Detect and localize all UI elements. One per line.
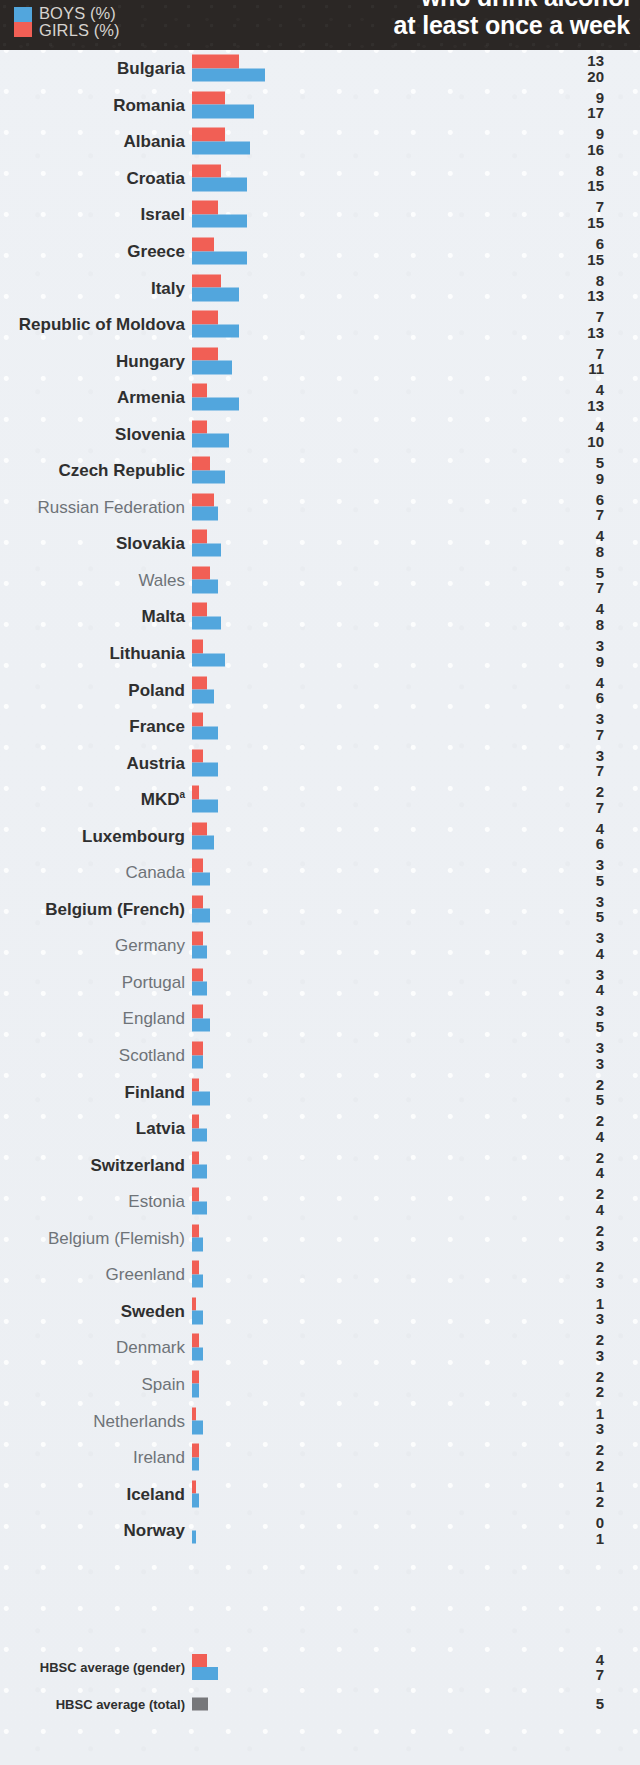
- row-bars: [192, 1407, 492, 1434]
- bar-girls: [192, 1151, 199, 1165]
- row-label: Germany: [115, 936, 185, 955]
- value-boys: 15: [587, 178, 604, 194]
- row-values: 25: [596, 1076, 604, 1107]
- row-values: 815: [587, 162, 604, 193]
- value-boys: 15: [587, 214, 604, 230]
- row-label: Romania: [113, 95, 185, 114]
- row-label: Norway: [124, 1521, 185, 1540]
- chart-row: Estonia24: [0, 1183, 640, 1220]
- value-boys: 7: [596, 1667, 604, 1683]
- value-girls: 3: [596, 930, 604, 946]
- row-bars: [192, 91, 492, 118]
- row-values: 916: [587, 126, 604, 157]
- bar-girls: [192, 932, 203, 946]
- value-girls: 13: [587, 53, 604, 69]
- row-label: Greece: [127, 242, 185, 261]
- value-girls: 4: [596, 1651, 604, 1667]
- row-bars: [192, 566, 492, 593]
- row-values: 715: [587, 199, 604, 230]
- bar-boys: [192, 945, 207, 959]
- value-girls: 2: [596, 1222, 604, 1238]
- chart-page: BOYS (%) GIRLS (%) who drink alcohol at …: [0, 0, 640, 1765]
- chart-title: who drink alcohol at least once a week: [394, 0, 630, 39]
- chart-row: Belgium (Flemish)23: [0, 1220, 640, 1257]
- row-label: Austria: [126, 753, 185, 772]
- bar-girls: [192, 1042, 203, 1056]
- value-girls: 2: [596, 1149, 604, 1165]
- chart-row: Russian Federation67: [0, 489, 640, 526]
- row-values: 711: [588, 345, 604, 376]
- row-bars: [192, 786, 492, 813]
- bar-girls: [192, 1005, 203, 1019]
- row-bars: [192, 1151, 492, 1178]
- bar-boys: [192, 141, 250, 155]
- bar-boys: [192, 799, 218, 813]
- row-label: Poland: [128, 680, 185, 699]
- chart-row: Republic of Moldova713: [0, 306, 640, 343]
- row-label: Scotland: [119, 1046, 185, 1065]
- chart-row: Romania917: [0, 87, 640, 124]
- row-bars: [192, 1517, 492, 1544]
- bar-boys: [192, 909, 210, 923]
- row-values: 24: [596, 1113, 604, 1144]
- row-label: Belgium (French): [45, 899, 185, 918]
- value-girls: 3: [596, 638, 604, 654]
- bar-girls: [192, 1334, 199, 1348]
- row-bars: [192, 1188, 492, 1215]
- row-values: 917: [587, 89, 604, 120]
- bar-boys: [192, 690, 214, 704]
- bar-girls: [192, 1078, 199, 1092]
- bar-boys: [192, 1457, 199, 1471]
- bar-girls: [192, 566, 210, 580]
- chart-row: MKDa27: [0, 781, 640, 818]
- row-bars: [192, 1334, 492, 1361]
- bar-boys: [192, 1530, 196, 1544]
- chart-row: Israel715: [0, 196, 640, 233]
- value-boys: 7: [596, 507, 604, 523]
- bar-boys: [192, 1421, 203, 1435]
- value-boys: 13: [587, 397, 604, 413]
- bar-girls: [192, 274, 221, 288]
- row-label: Switzerland: [91, 1155, 185, 1174]
- row-values: 39: [596, 638, 604, 669]
- value-boys: 1: [596, 1530, 604, 1546]
- bar-girls: [192, 1115, 199, 1129]
- value-girls: 3: [596, 711, 604, 727]
- row-bars: [192, 274, 492, 301]
- chart-row: France37: [0, 708, 640, 745]
- chart-averages: HBSC average (gender)47HBSC average (tot…: [0, 1648, 640, 1722]
- bar-boys: [192, 1274, 203, 1288]
- value-girls: 2: [596, 1113, 604, 1129]
- value-girls: 4: [587, 382, 604, 398]
- bar-girls: [192, 1444, 199, 1458]
- chart-row: Austria37: [0, 744, 640, 781]
- value-boys: 3: [596, 1238, 604, 1254]
- chart-header: BOYS (%) GIRLS (%) who drink alcohol at …: [0, 0, 640, 50]
- chart-title-line-1: who drink alcohol: [394, 0, 630, 11]
- average-values: 5: [596, 1696, 604, 1712]
- row-values: 34: [596, 930, 604, 961]
- value-girls: 0: [596, 1515, 604, 1531]
- value-boys: 11: [588, 361, 604, 377]
- chart-row: Slovenia410: [0, 415, 640, 452]
- bar-boys: [192, 1018, 210, 1032]
- row-bars: [192, 1444, 492, 1471]
- row-label: Iceland: [126, 1484, 185, 1503]
- value-boys: 4: [596, 945, 604, 961]
- bar-boys: [192, 1311, 203, 1325]
- bar-girls: [192, 201, 218, 215]
- value-boys: 13: [587, 324, 604, 340]
- chart-row: Latvia24: [0, 1110, 640, 1147]
- row-bars: [192, 859, 492, 886]
- value-girls: 4: [587, 418, 604, 434]
- value-boys: 5: [596, 909, 604, 925]
- bar-boys: [192, 543, 221, 557]
- chart-row: Poland46: [0, 671, 640, 708]
- bar-boys: [192, 214, 247, 228]
- average-bars: [192, 1697, 312, 1710]
- row-label: Luxembourg: [82, 826, 185, 845]
- row-values: 24: [596, 1149, 604, 1180]
- row-values: 46: [596, 674, 604, 705]
- row-label: Ireland: [133, 1448, 185, 1467]
- value-girls: 8: [587, 162, 604, 178]
